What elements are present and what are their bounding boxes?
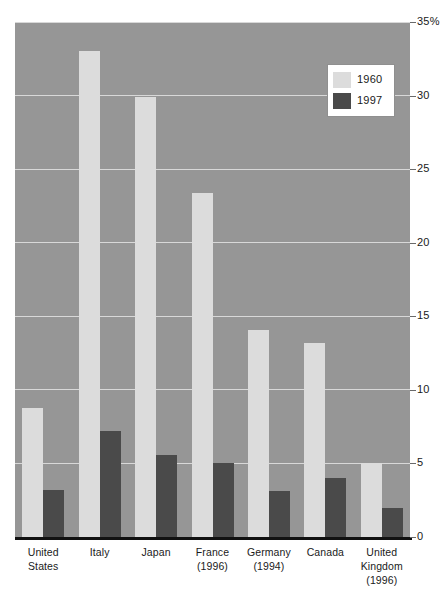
y-axis-tick-mark xyxy=(410,463,416,464)
x-axis-label: France(1996) xyxy=(184,545,240,573)
y-axis-tick-label: 35% xyxy=(417,16,440,27)
legend-swatch-1960 xyxy=(333,72,351,88)
gridline xyxy=(15,242,410,243)
bar-1960-italy xyxy=(79,51,100,537)
bar-1997-japan xyxy=(156,455,177,537)
x-axis-label: Japan xyxy=(128,545,184,559)
y-axis-tick-label: 20 xyxy=(417,237,430,248)
x-axis-label-line: (1996) xyxy=(184,559,240,573)
y-axis-tick-mark xyxy=(410,96,416,97)
legend-item-1997: 1997 xyxy=(333,90,389,111)
x-axis-label-line: France xyxy=(184,545,240,559)
bar-1960-united-kingdom-1996 xyxy=(361,463,382,537)
x-axis-label-line: Germany xyxy=(241,545,297,559)
y-axis-tick-mark xyxy=(410,316,416,317)
x-axis-label-line: United xyxy=(15,545,71,559)
y-axis-tick-label: 15 xyxy=(417,310,430,321)
y-axis-tick-label: 10 xyxy=(417,384,430,395)
x-axis-label: Canada xyxy=(297,545,353,559)
x-axis-label-line: Italy xyxy=(71,545,127,559)
x-axis-label: Germany(1994) xyxy=(241,545,297,573)
y-axis-tick-label: 0 xyxy=(417,531,423,542)
x-axis-label-line: Canada xyxy=(297,545,353,559)
x-axis-label-line: United xyxy=(354,545,410,559)
bar-chart: UnitedStatesItalyJapanFrance(1996)German… xyxy=(0,0,444,605)
bar-1997-france-1996 xyxy=(213,463,234,537)
bar-1960-germany-1994 xyxy=(248,330,269,537)
legend-label-1960: 1960 xyxy=(357,74,382,85)
y-axis-tick-label: 5 xyxy=(417,457,423,468)
x-axis-label: UnitedKingdom(1996) xyxy=(354,545,410,587)
x-axis-label-line: Japan xyxy=(128,545,184,559)
bar-1960-japan xyxy=(135,97,156,537)
y-axis-tick-mark xyxy=(410,169,416,170)
y-axis-tick-mark xyxy=(410,390,416,391)
bar-1960-france-1996 xyxy=(192,193,213,537)
x-axis-label-line: Kingdom xyxy=(354,559,410,573)
x-axis-baseline xyxy=(15,537,412,540)
legend-item-1960: 1960 xyxy=(333,69,389,90)
legend-label-1997: 1997 xyxy=(357,95,382,106)
x-axis-label-line: (1996) xyxy=(354,573,410,587)
x-axis-label-line: (1994) xyxy=(241,559,297,573)
y-axis-tick-mark xyxy=(410,537,416,538)
y-axis-tick-mark xyxy=(410,22,416,23)
bar-1997-canada xyxy=(325,478,346,537)
gridline xyxy=(15,169,410,170)
bar-1997-italy xyxy=(100,431,121,537)
x-axis-label-line: States xyxy=(15,559,71,573)
chart-legend: 1960 1997 xyxy=(327,64,395,117)
bar-1960-canada xyxy=(304,343,325,537)
bar-1997-united-kingdom-1996 xyxy=(382,508,403,537)
y-axis-tick-label: 30 xyxy=(417,90,430,101)
bar-1997-germany-1994 xyxy=(269,491,290,537)
gridline xyxy=(15,389,410,390)
gridline xyxy=(15,316,410,317)
bar-1997-united-states xyxy=(43,490,64,537)
y-axis-tick-label: 25 xyxy=(417,163,430,174)
x-axis-label: UnitedStates xyxy=(15,545,71,573)
bar-1960-united-states xyxy=(22,408,43,537)
legend-swatch-1997 xyxy=(333,93,351,109)
gridline xyxy=(15,22,410,23)
y-axis-tick-mark xyxy=(410,243,416,244)
x-axis-labels: UnitedStatesItalyJapanFrance(1996)German… xyxy=(15,545,410,603)
x-axis-label: Italy xyxy=(71,545,127,559)
